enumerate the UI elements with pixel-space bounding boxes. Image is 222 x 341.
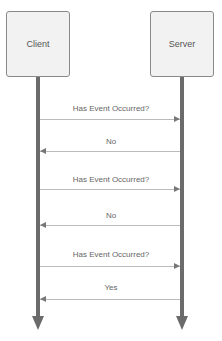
message-label: Has Event Occurred? xyxy=(40,104,182,113)
client-lifeline-arrowhead-icon xyxy=(32,316,44,330)
message-arrow-line xyxy=(40,189,180,190)
actor-client-label: Client xyxy=(26,39,49,49)
message-label: No xyxy=(40,137,182,146)
message-label: Has Event Occurred? xyxy=(40,175,182,184)
message-label: Has Event Occurred? xyxy=(40,250,182,259)
actor-client-box: Client xyxy=(6,11,70,77)
arrow-left-icon xyxy=(40,296,46,302)
message-label: No xyxy=(40,211,182,220)
actor-server-label: Server xyxy=(169,39,196,49)
server-lifeline xyxy=(180,77,184,317)
arrow-right-icon xyxy=(174,263,180,269)
arrow-right-icon xyxy=(174,116,180,122)
arrow-right-icon xyxy=(174,186,180,192)
message-arrow-line xyxy=(40,266,180,267)
message-arrow-line xyxy=(40,119,180,120)
arrow-left-icon xyxy=(40,148,46,154)
message-arrow-line xyxy=(40,299,180,300)
arrow-left-icon xyxy=(40,222,46,228)
message-label: Yes xyxy=(40,283,182,292)
message-arrow-line xyxy=(40,225,180,226)
message-arrow-line xyxy=(40,151,180,152)
client-lifeline xyxy=(36,77,40,317)
server-lifeline-arrowhead-icon xyxy=(176,316,188,330)
actor-server-box: Server xyxy=(150,11,214,77)
